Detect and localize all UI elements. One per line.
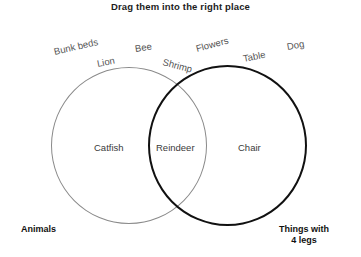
set-caption-legs-line1: Things with bbox=[279, 224, 329, 235]
set-caption-things-with-4-legs: Things with 4 legs bbox=[279, 224, 329, 246]
set-caption-animals-line1: Animals bbox=[21, 224, 56, 235]
venn-drag-activity: Drag them into the right place Bunk beds… bbox=[0, 0, 361, 257]
venn-region-label-animals-only[interactable]: Catfish bbox=[94, 142, 124, 153]
draggable-word[interactable]: Table bbox=[242, 49, 266, 64]
draggable-word[interactable]: Flowers bbox=[195, 35, 230, 54]
venn-region-label-overlap[interactable]: Reindeer bbox=[156, 142, 195, 153]
draggable-word[interactable]: Bee bbox=[134, 40, 152, 54]
draggable-word[interactable]: Bunk beds bbox=[53, 36, 99, 57]
set-caption-animals: Animals bbox=[21, 224, 56, 235]
draggable-word[interactable]: Shrimp bbox=[162, 56, 194, 74]
set-caption-legs-line2: 4 legs bbox=[279, 235, 329, 246]
draggable-word[interactable]: Lion bbox=[96, 55, 116, 69]
venn-region-label-legs-only[interactable]: Chair bbox=[238, 142, 261, 153]
draggable-word[interactable]: Dog bbox=[286, 38, 305, 52]
page-title: Drag them into the right place bbox=[0, 1, 361, 12]
